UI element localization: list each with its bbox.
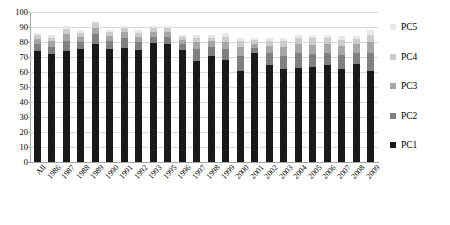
bar-segment-pc1 bbox=[280, 69, 287, 162]
legend-label: PC4 bbox=[401, 52, 417, 62]
bar-column bbox=[251, 12, 258, 162]
x-axis-tick-label: 2000 bbox=[234, 163, 251, 181]
y-axis-tick-label: 20 bbox=[2, 128, 28, 136]
bar-series-container bbox=[30, 12, 378, 162]
bar-segment-pc1 bbox=[237, 71, 244, 162]
bar-column bbox=[338, 12, 345, 162]
bar-column bbox=[222, 12, 229, 162]
bar-column bbox=[237, 12, 244, 162]
x-axis-tick-label: 1995 bbox=[161, 163, 178, 181]
bar-column bbox=[121, 12, 128, 162]
bar-segment-pc3 bbox=[193, 42, 200, 49]
bar-column bbox=[77, 12, 84, 162]
bar-stack bbox=[324, 35, 331, 163]
x-axis-tick-label: 1990 bbox=[103, 163, 120, 181]
y-axis-tick-label: 10 bbox=[2, 143, 28, 151]
y-axis-tick-label: 90 bbox=[2, 23, 28, 31]
bar-segment-pc3 bbox=[222, 42, 229, 49]
bar-segment-pc2 bbox=[280, 56, 287, 70]
bar-stack bbox=[353, 36, 360, 162]
bar-segment-pc1 bbox=[48, 54, 55, 162]
x-axis-tick-label: 1997 bbox=[190, 163, 207, 181]
bar-segment-pc1 bbox=[77, 49, 84, 162]
bar-segment-pc2 bbox=[222, 49, 229, 60]
bar-segment-pc1 bbox=[208, 56, 215, 163]
bar-segment-pc2 bbox=[324, 53, 331, 65]
bar-segment-pc1 bbox=[135, 50, 142, 163]
legend-swatch-icon bbox=[390, 142, 396, 148]
legend-swatch-icon bbox=[390, 113, 396, 119]
bar-segment-pc1 bbox=[367, 71, 374, 163]
legend-swatch-icon bbox=[390, 83, 396, 89]
bar-column bbox=[367, 12, 374, 162]
bar-segment-pc1 bbox=[121, 48, 128, 162]
bar-stack bbox=[92, 21, 99, 162]
bar-segment-pc2 bbox=[34, 44, 41, 51]
x-axis-tick-label: 2003 bbox=[277, 163, 294, 181]
y-axis-tick-label: 60 bbox=[2, 68, 28, 76]
x-axis-tick-label: 1988 bbox=[74, 163, 91, 181]
bar-column bbox=[135, 12, 142, 162]
x-axis-tick-label: 1999 bbox=[219, 163, 236, 181]
bar-segment-pc2 bbox=[237, 56, 244, 72]
bar-stack bbox=[309, 35, 316, 163]
bar-stack bbox=[208, 35, 215, 163]
legend-label: PC2 bbox=[401, 111, 417, 121]
bar-segment-pc1 bbox=[222, 60, 229, 162]
bar-segment-pc2 bbox=[367, 53, 374, 70]
legend-item-pc1[interactable]: PC1 bbox=[390, 140, 450, 170]
legend-item-pc3[interactable]: PC3 bbox=[390, 81, 450, 111]
legend-item-pc2[interactable]: PC2 bbox=[390, 111, 450, 141]
y-axis-tick-label: 80 bbox=[2, 38, 28, 46]
bar-column bbox=[353, 12, 360, 162]
bar-stack bbox=[150, 26, 157, 163]
x-axis-tick-label: 1989 bbox=[89, 163, 106, 181]
legend-item-pc5[interactable]: PC5 bbox=[390, 22, 450, 52]
bar-segment-pc1 bbox=[106, 49, 113, 162]
y-axis-tick-label: 100 bbox=[2, 8, 28, 16]
bar-stack bbox=[164, 26, 171, 163]
bar-segment-pc2 bbox=[193, 49, 200, 61]
bar-segment-pc3 bbox=[367, 42, 374, 53]
bar-column bbox=[280, 12, 287, 162]
bar-segment-pc1 bbox=[309, 67, 316, 162]
bar-segment-pc1 bbox=[324, 65, 331, 163]
x-axis-tick-label: 2007 bbox=[335, 163, 352, 181]
legend-label: PC1 bbox=[401, 140, 417, 150]
bar-stack bbox=[63, 26, 70, 163]
chart-legend: PC5PC4PC3PC2PC1 bbox=[390, 22, 450, 170]
bar-segment-pc1 bbox=[353, 64, 360, 162]
bar-column bbox=[150, 12, 157, 162]
y-axis-tick-label: 30 bbox=[2, 113, 28, 121]
bar-segment-pc1 bbox=[295, 68, 302, 163]
bar-column bbox=[92, 12, 99, 162]
bar-stack bbox=[48, 35, 55, 163]
x-axis-tick-label: 1991 bbox=[118, 163, 135, 181]
bar-stack bbox=[121, 26, 128, 163]
bar-segment-pc1 bbox=[63, 51, 70, 162]
bar-column bbox=[106, 12, 113, 162]
x-axis-tick-label: 1998 bbox=[205, 163, 222, 181]
bar-segment-pc2 bbox=[309, 54, 316, 67]
bar-segment-pc1 bbox=[266, 65, 273, 162]
bar-segment-pc2 bbox=[266, 53, 273, 65]
bar-column bbox=[309, 12, 316, 162]
bar-stack bbox=[237, 38, 244, 163]
legend-swatch-icon bbox=[390, 54, 396, 60]
y-axis-tick-label: 40 bbox=[2, 98, 28, 106]
x-axis-tick-label: 1996 bbox=[176, 163, 193, 181]
x-axis-labels: All1986198719881989199019911992199319951… bbox=[30, 163, 378, 223]
x-axis-tick-label: 1992 bbox=[132, 163, 149, 181]
bar-segment-pc2 bbox=[63, 41, 70, 52]
bar-stack bbox=[179, 35, 186, 163]
bar-segment-pc3 bbox=[295, 44, 302, 53]
bar-stack bbox=[193, 35, 200, 163]
bar-segment-pc3 bbox=[280, 47, 287, 55]
bar-column bbox=[164, 12, 171, 162]
x-axis-tick-label: 2004 bbox=[292, 163, 309, 181]
bar-segment-pc3 bbox=[237, 47, 244, 56]
legend-item-pc4[interactable]: PC4 bbox=[390, 52, 450, 82]
bar-segment-pc1 bbox=[338, 69, 345, 162]
bar-column bbox=[208, 12, 215, 162]
bar-segment-pc1 bbox=[34, 51, 41, 162]
